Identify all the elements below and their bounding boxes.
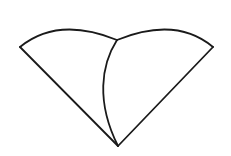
geometric-figure-svg: [0, 0, 231, 156]
right-sector-arc: [117, 30, 213, 47]
right-sector-radius: [118, 47, 213, 146]
left-sector-arc: [20, 30, 117, 47]
figure-canvas: [0, 0, 231, 156]
inner-overlap-arc: [103, 40, 118, 146]
